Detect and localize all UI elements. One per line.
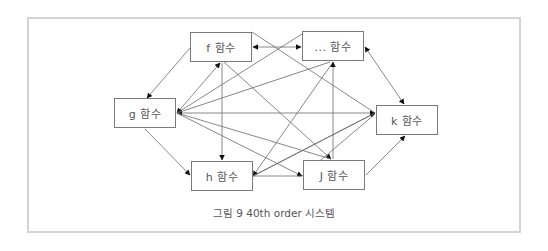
node-k-function: k 함수 (376, 105, 438, 135)
node-ellipsis-function: ... 함수 (302, 31, 364, 61)
edge-f-g (147, 48, 190, 98)
node-h-function: h 함수 (191, 161, 253, 191)
node-g-function: g 함수 (114, 98, 176, 128)
node-label: k 함수 (391, 112, 423, 128)
node-label: g 함수 (129, 105, 161, 121)
edge-j-k (366, 136, 405, 175)
edge-dots-g-2 (177, 62, 330, 113)
node-label: f 함수 (206, 39, 235, 55)
node-j-function: J 함수 (303, 160, 365, 190)
edge-dots-h (253, 62, 333, 176)
edge-g-h (145, 129, 190, 175)
node-f-function: f 함수 (190, 32, 252, 62)
node-label: h 함수 (206, 168, 238, 184)
edge-dots-k (365, 47, 404, 104)
node-label: ... 함수 (315, 38, 352, 54)
node-label: J 함수 (320, 167, 349, 183)
figure-caption: 그림 9 40th order 시스템 (0, 205, 548, 220)
